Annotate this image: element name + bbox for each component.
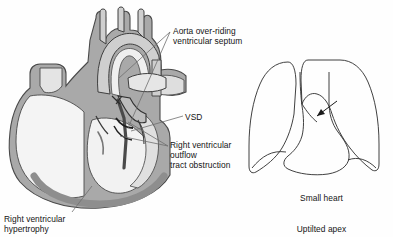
heart-silhouette bbox=[284, 72, 349, 175]
label-right-ventricular-hypertrophy: Right ventricularhypertrophy bbox=[4, 214, 65, 234]
chest-radiograph-graphic bbox=[249, 60, 379, 175]
label-rvoto-line2: outflow bbox=[170, 150, 197, 160]
label-vsd: VSD bbox=[185, 112, 202, 122]
left-common-carotid bbox=[118, 7, 124, 32]
label-rvh-line1: Right ventricular bbox=[4, 214, 65, 224]
left-lung-outline bbox=[301, 60, 379, 171]
label-rvh-line2: hypertrophy bbox=[4, 224, 49, 234]
cxr-note-1: Uptilted apex bbox=[250, 224, 393, 234]
right-lung-outline bbox=[249, 62, 296, 173]
pulmonary-artery-bay-arrow bbox=[317, 101, 337, 116]
chest-xray-notes-list: Small heart Uptilted apex Pulmonary arte… bbox=[250, 173, 393, 237]
label-aorta-line2: ventricular septum bbox=[173, 36, 242, 46]
right-hemidiaphragm bbox=[252, 152, 286, 168]
left-hemidiaphragm bbox=[348, 158, 376, 168]
label-rvoto-line3: tract obstruction bbox=[170, 160, 230, 170]
label-aorta-overriding: Aorta over-ridingventricular septum bbox=[173, 26, 242, 46]
label-rv-outflow-tract-obstruction: Right ventricularoutflowtract obstructio… bbox=[170, 140, 231, 171]
figure-container: Aorta over-ridingventricular septum VSD … bbox=[0, 0, 393, 237]
label-rvoto-line1: Right ventricular bbox=[170, 140, 231, 150]
brachiocephalic-artery bbox=[100, 9, 106, 44]
superior-vena-cava bbox=[40, 68, 62, 93]
pulmonary-artery-bay bbox=[302, 104, 317, 122]
label-aorta-line1: Aorta over-riding bbox=[173, 26, 236, 36]
pulmonary-artery bbox=[128, 74, 166, 92]
cxr-note-0: Small heart bbox=[250, 193, 393, 203]
heart-body bbox=[9, 7, 186, 208]
